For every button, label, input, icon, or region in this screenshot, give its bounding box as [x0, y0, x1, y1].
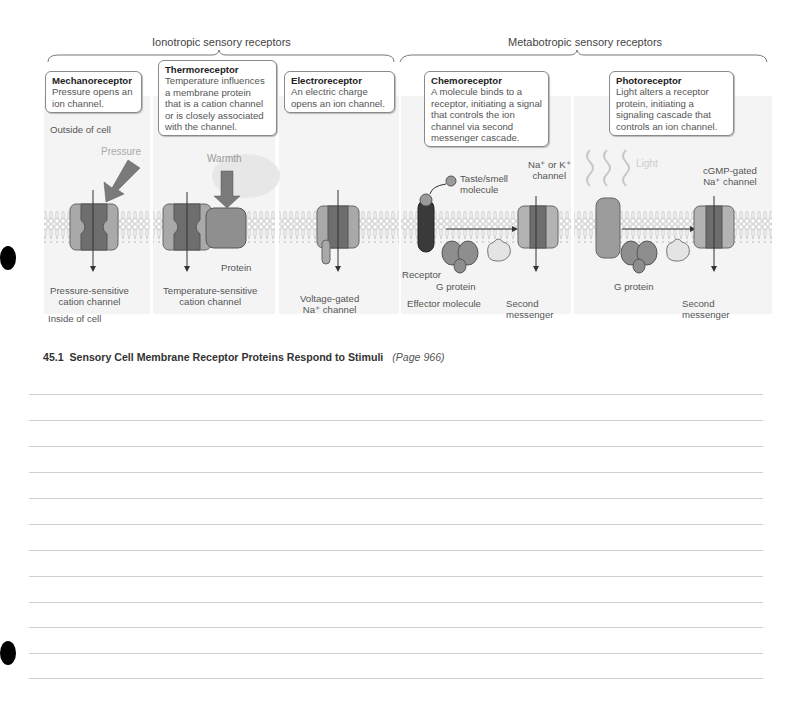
- taste-smell-label: Taste/smellmolecule: [460, 173, 508, 195]
- g-protein-label-2: G protein: [614, 281, 653, 292]
- note-line[interactable]: [29, 394, 763, 395]
- inside-of-cell-label: Inside of cell: [48, 313, 101, 324]
- note-line[interactable]: [29, 472, 763, 473]
- cgmp-channel-label: cGMP-gatedNa⁺ channel: [703, 165, 757, 187]
- caption-page-ref: (Page 966): [392, 351, 444, 363]
- taste-smell-molecule-icon: [446, 176, 456, 186]
- callout-thermoreceptor: Thermoreceptor Temperature influences a …: [158, 60, 277, 136]
- callout-photoreceptor: Photoreceptor Light alters a receptor pr…: [609, 71, 734, 136]
- note-line[interactable]: [29, 653, 763, 654]
- note-line[interactable]: [29, 524, 763, 525]
- pressure-channel-icon: [70, 204, 118, 250]
- caption-title: Sensory Cell Membrane Receptor Proteins …: [70, 351, 384, 363]
- note-line[interactable]: [29, 446, 763, 447]
- protein-label: Protein: [221, 262, 251, 273]
- note-line[interactable]: [29, 420, 763, 421]
- note-line[interactable]: [29, 678, 763, 679]
- warmth-protein-icon: [206, 208, 246, 248]
- note-line[interactable]: [29, 498, 763, 499]
- receptor-label: Receptor: [402, 269, 441, 280]
- na-k-channel-icon: [518, 206, 558, 248]
- light-waves-icon: [587, 150, 629, 186]
- second-messenger-label-2: Secondmessenger: [682, 298, 729, 320]
- temperature-channel-label: Temperature-sensitivecation channel: [163, 285, 257, 307]
- voltage-channel-label: Voltage-gatedNa⁺ channel: [300, 293, 359, 315]
- g-protein-icon-1: [442, 241, 478, 273]
- pressure-channel-label: Pressure-sensitivecation channel: [50, 285, 129, 307]
- note-line[interactable]: [29, 627, 763, 628]
- callout-chemoreceptor: Chemoreceptor A molecule binds to a rece…: [424, 71, 549, 147]
- warmth-label: Warmth: [207, 153, 242, 164]
- note-line[interactable]: [29, 576, 763, 577]
- binder-hole-bottom: [0, 641, 16, 665]
- na-k-channel-label: Na⁺ or K⁺channel: [528, 159, 571, 181]
- photoreceptor-protein-icon: [596, 198, 620, 258]
- pressure-label: Pressure: [101, 146, 141, 157]
- effector-molecule-label: Effector molecule: [407, 298, 481, 309]
- second-messenger-label-1: Secondmessenger: [506, 298, 553, 320]
- callout-mechanoreceptor: Mechanoreceptor Pressure opens an ion ch…: [45, 71, 142, 113]
- callout-electroreceptor: Electroreceptor An electric charge opens…: [284, 71, 395, 113]
- caption-number: 45.1: [43, 351, 64, 363]
- light-label: Light: [636, 158, 658, 169]
- g-protein-label-1: G protein: [436, 281, 475, 292]
- note-line[interactable]: [29, 550, 763, 551]
- figure-caption: 45.1 Sensory Cell Membrane Receptor Prot…: [43, 351, 445, 363]
- note-line[interactable]: [29, 602, 763, 603]
- outside-of-cell-label: Outside of cell: [50, 124, 111, 135]
- pressure-arrow-icon: [104, 160, 140, 202]
- g-protein-icon-2: [621, 241, 657, 273]
- receptor-icon: [418, 200, 434, 252]
